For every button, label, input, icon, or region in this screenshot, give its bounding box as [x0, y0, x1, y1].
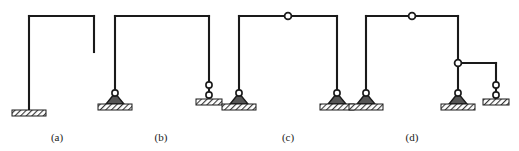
link-upper-circle	[493, 82, 499, 88]
frame-d-members	[366, 16, 496, 104]
frame-b-supports	[98, 82, 222, 110]
caption-c: (c)	[282, 131, 294, 143]
ground-hatch	[349, 104, 383, 110]
pin-support-left	[222, 90, 256, 110]
pin-circle	[334, 90, 340, 96]
frame-c-supports	[222, 90, 354, 110]
supports-layer	[12, 82, 509, 116]
pin-circle	[112, 90, 118, 96]
frame-d-supports	[349, 82, 509, 110]
hinge-side-beam-hinge	[455, 60, 462, 67]
ground-hatch	[98, 104, 132, 110]
fixed-support	[12, 110, 46, 116]
ground-hatch	[441, 104, 475, 110]
caption-a: (a)	[51, 131, 63, 143]
link-upper-circle	[206, 82, 212, 88]
caption-b: (b)	[155, 131, 168, 143]
frame-c-members	[239, 16, 337, 104]
ground-hatch	[196, 99, 222, 105]
hinge-top-beam-hinge	[409, 13, 416, 20]
hinge-top-beam-hinge	[285, 13, 292, 20]
link-lower-circle	[493, 92, 499, 98]
pin-support	[98, 90, 132, 110]
frame-d-hinges	[409, 13, 462, 67]
link-lower-circle	[206, 92, 212, 98]
frame-b-members	[115, 16, 209, 104]
ground-hatch	[12, 110, 46, 116]
hinges-layer	[285, 13, 462, 67]
frame-c-hinges	[285, 13, 292, 20]
pin-support-middle	[441, 90, 475, 110]
pin-circle	[236, 90, 242, 96]
ground-hatch	[222, 104, 256, 110]
frame-a-members	[29, 16, 94, 110]
caption-d: (d)	[406, 131, 419, 143]
members-layer	[29, 16, 496, 110]
link-support	[196, 82, 222, 105]
ground-hatch	[483, 99, 509, 105]
structural-frames-figure: (a)(b)(c)(d)	[0, 0, 519, 151]
frame-a-supports	[12, 110, 46, 116]
pin-circle	[363, 90, 369, 96]
pin-support-left	[349, 90, 383, 110]
frames-drawing	[0, 0, 519, 151]
pin-circle	[455, 90, 461, 96]
link-support-right	[483, 82, 509, 105]
